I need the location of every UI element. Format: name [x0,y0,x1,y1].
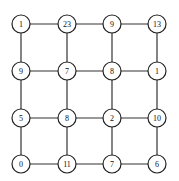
graph-node: 2 [103,109,121,127]
node-label: 8 [110,67,114,76]
node-label: 5 [19,114,23,123]
node-label: 1 [155,67,159,76]
graph-node: 0 [12,155,30,173]
graph-node: 8 [58,109,76,127]
grid-graph-diagram: 12391397815821001176 [0,0,179,181]
node-label: 6 [155,160,159,169]
node-label: 0 [19,160,23,169]
node-label: 23 [63,20,71,29]
graph-node: 11 [58,155,76,173]
edges [21,24,157,164]
node-label: 2 [110,114,114,123]
node-label: 1 [19,20,23,29]
graph-node: 8 [103,62,121,80]
graph-node: 23 [58,15,76,33]
graph-node: 7 [103,155,121,173]
node-label: 11 [63,160,71,169]
graph-node: 1 [148,62,166,80]
node-label: 7 [110,160,114,169]
node-label: 8 [65,114,69,123]
node-label: 7 [65,67,69,76]
graph-node: 6 [148,155,166,173]
graph-node: 5 [12,109,30,127]
graph-node: 10 [148,109,166,127]
graph-node: 9 [103,15,121,33]
node-label: 10 [153,114,161,123]
node-label: 9 [19,67,23,76]
node-label: 13 [153,20,161,29]
graph-node: 7 [58,62,76,80]
graph-node: 13 [148,15,166,33]
nodes: 12391397815821001176 [12,15,166,173]
graph-node: 1 [12,15,30,33]
node-label: 9 [110,20,114,29]
graph-node: 9 [12,62,30,80]
